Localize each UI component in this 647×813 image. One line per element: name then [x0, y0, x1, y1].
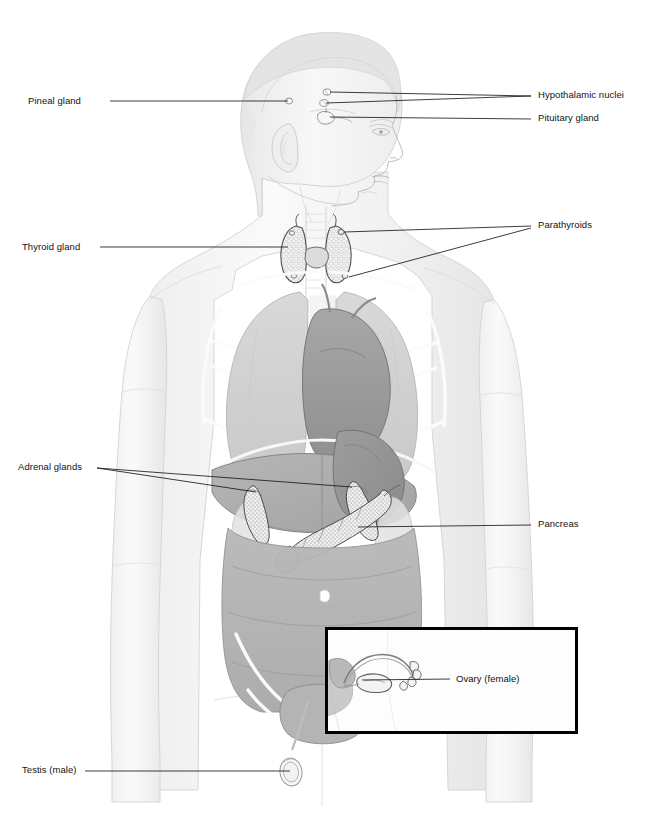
label-ovary-female: Ovary (female) [456, 673, 520, 684]
label-pancreas: Pancreas [538, 518, 579, 529]
label-pituitary-gland: Pituitary gland [538, 112, 599, 123]
label-hypothalamic-nuclei: Hypothalamic nuclei [538, 89, 624, 100]
label-pineal-gland: Pineal gland [28, 95, 81, 106]
label-parathyroids: Parathyroids [538, 219, 592, 230]
label-testis-male: Testis (male) [22, 764, 77, 775]
label-thyroid-gland: Thyroid gland [22, 241, 80, 252]
label-adrenal-glands: Adrenal glands [18, 461, 82, 472]
